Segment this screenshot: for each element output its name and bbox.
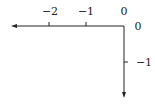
y-tick-label-minus-1: −1 <box>136 57 152 68</box>
y-axis-arrow-down-icon <box>122 92 126 98</box>
x-tick-label-minus-1: −1 <box>78 6 94 17</box>
x-tick-label-minus-2: −2 <box>42 6 58 17</box>
x-axis-ticks <box>49 22 86 26</box>
x-tick-label-0: 0 <box>121 6 128 17</box>
y-tick-label-0: 0 <box>135 21 142 32</box>
x-axis-arrow-left-icon <box>11 24 17 28</box>
